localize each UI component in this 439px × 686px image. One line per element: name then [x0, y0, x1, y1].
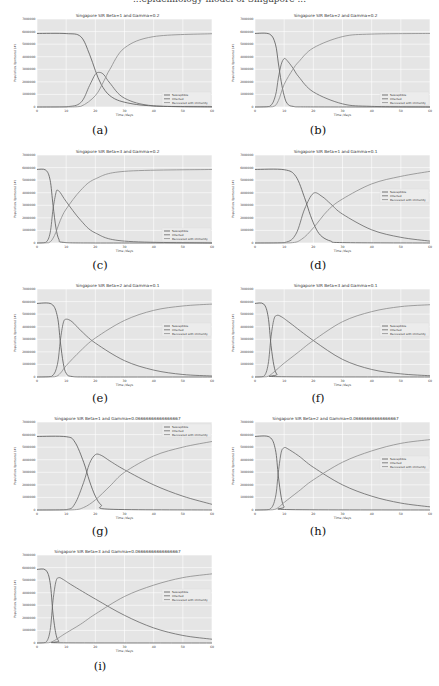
- svg-text:60: 60: [428, 379, 432, 383]
- svg-text:3000000: 3000000: [240, 203, 253, 207]
- svg-text:50: 50: [399, 379, 403, 383]
- svg-text:0: 0: [254, 245, 256, 249]
- subfigure-caption: (e): [80, 391, 120, 405]
- svg-text:5000000: 5000000: [240, 178, 253, 182]
- svg-text:20: 20: [93, 645, 97, 649]
- svg-text:7000000: 7000000: [240, 153, 253, 157]
- svg-text:60: 60: [210, 109, 214, 113]
- svg-text:Time /days: Time /days: [115, 113, 134, 117]
- svg-text:3000000: 3000000: [22, 603, 35, 607]
- subfigure-caption: (i): [80, 659, 120, 673]
- svg-text:40: 40: [152, 512, 156, 516]
- legend: SusceptibleInfectedRecovered with immuni…: [162, 424, 211, 437]
- svg-text:5000000: 5000000: [22, 178, 35, 182]
- line-chart: 0102030405060010000002000000300000040000…: [10, 413, 225, 525]
- svg-text:4000000: 4000000: [22, 191, 35, 195]
- svg-text:Population /(persons) (#): Population /(persons) (#): [13, 180, 17, 218]
- svg-text:Recovered with immunity: Recovered with immunity: [390, 101, 426, 105]
- svg-text:60: 60: [210, 379, 214, 383]
- svg-text:4000000: 4000000: [22, 325, 35, 329]
- svg-text:Time /days: Time /days: [115, 516, 134, 520]
- svg-text:Population /(persons) (#): Population /(persons) (#): [231, 447, 235, 485]
- svg-text:2000000: 2000000: [240, 483, 253, 487]
- legend: SusceptibleInfectedRecovered with immuni…: [162, 228, 211, 241]
- svg-text:Time /days: Time /days: [115, 249, 134, 253]
- svg-text:7000000: 7000000: [240, 287, 253, 291]
- svg-text:10: 10: [282, 512, 286, 516]
- svg-text:3000000: 3000000: [240, 67, 253, 71]
- svg-text:3000000: 3000000: [22, 203, 35, 207]
- svg-text:5000000: 5000000: [22, 42, 35, 46]
- svg-text:4000000: 4000000: [22, 55, 35, 59]
- svg-text:10: 10: [64, 512, 68, 516]
- svg-text:Population /(persons) (#): Population /(persons) (#): [231, 44, 235, 82]
- svg-text:0: 0: [34, 508, 36, 512]
- svg-text:6000000: 6000000: [22, 30, 35, 34]
- svg-text:Population /(persons) (#): Population /(persons) (#): [13, 447, 17, 485]
- svg-text:Population /(persons) (#): Population /(persons) (#): [231, 180, 235, 218]
- svg-text:0: 0: [36, 379, 38, 383]
- svg-text:2000000: 2000000: [240, 216, 253, 220]
- svg-text:0: 0: [252, 508, 254, 512]
- svg-text:6000000: 6000000: [22, 300, 35, 304]
- svg-text:5000000: 5000000: [22, 578, 35, 582]
- svg-text:4000000: 4000000: [240, 458, 253, 462]
- svg-text:40: 40: [152, 109, 156, 113]
- svg-text:Recovered with immunity: Recovered with immunity: [172, 598, 208, 602]
- svg-text:5000000: 5000000: [240, 445, 253, 449]
- svg-text:4000000: 4000000: [22, 591, 35, 595]
- svg-text:10: 10: [64, 379, 68, 383]
- svg-text:0: 0: [34, 375, 36, 379]
- svg-text:0: 0: [36, 512, 38, 516]
- svg-text:0: 0: [252, 105, 254, 109]
- subfigure-caption: (d): [298, 258, 338, 272]
- svg-text:50: 50: [399, 512, 403, 516]
- svg-text:7000000: 7000000: [22, 553, 35, 557]
- svg-text:4000000: 4000000: [22, 458, 35, 462]
- svg-text:30: 30: [340, 512, 344, 516]
- svg-text:40: 40: [152, 379, 156, 383]
- svg-text:60: 60: [210, 245, 214, 249]
- svg-text:40: 40: [370, 109, 374, 113]
- svg-text:4000000: 4000000: [240, 191, 253, 195]
- svg-text:10: 10: [282, 379, 286, 383]
- svg-text:30: 30: [340, 109, 344, 113]
- subfigure-caption: (a): [80, 123, 120, 137]
- svg-text:10: 10: [282, 245, 286, 249]
- svg-text:6000000: 6000000: [240, 433, 253, 437]
- svg-text:Population /(persons) (#): Population /(persons) (#): [13, 580, 17, 618]
- svg-text:60: 60: [210, 645, 214, 649]
- svg-text:50: 50: [181, 379, 185, 383]
- svg-text:7000000: 7000000: [22, 420, 35, 424]
- svg-text:6000000: 6000000: [240, 166, 253, 170]
- svg-text:Recovered with immunity: Recovered with immunity: [172, 332, 208, 336]
- line-chart: 0102030405060010000002000000300000040000…: [228, 280, 439, 392]
- svg-text:0: 0: [254, 379, 256, 383]
- line-chart: 0102030405060010000002000000300000040000…: [10, 146, 225, 258]
- svg-text:5000000: 5000000: [240, 312, 253, 316]
- line-chart: 0102030405060010000002000000300000040000…: [10, 10, 225, 122]
- svg-text:Time /days: Time /days: [333, 516, 352, 520]
- svg-text:3000000: 3000000: [22, 67, 35, 71]
- svg-text:1000000: 1000000: [22, 495, 35, 499]
- svg-text:30: 30: [340, 245, 344, 249]
- svg-text:2000000: 2000000: [240, 80, 253, 84]
- svg-text:40: 40: [370, 512, 374, 516]
- svg-text:3000000: 3000000: [22, 470, 35, 474]
- svg-text:6000000: 6000000: [240, 30, 253, 34]
- svg-text:20: 20: [311, 109, 315, 113]
- legend: SusceptibleInfectedRecovered with immuni…: [162, 589, 211, 602]
- legend: SusceptibleInfectedRecovered with immuni…: [380, 189, 429, 202]
- svg-text:Population /(persons) (#): Population /(persons) (#): [231, 314, 235, 352]
- svg-text:0: 0: [252, 241, 254, 245]
- svg-text:30: 30: [122, 512, 126, 516]
- svg-text:50: 50: [181, 512, 185, 516]
- legend: SusceptibleInfectedRecovered with immuni…: [162, 323, 211, 336]
- svg-text:7000000: 7000000: [22, 287, 35, 291]
- svg-text:10: 10: [64, 645, 68, 649]
- svg-text:Time /days: Time /days: [115, 383, 134, 387]
- svg-text:20: 20: [93, 245, 97, 249]
- svg-text:40: 40: [152, 245, 156, 249]
- truncated-header-text: ...epidemiology model of Singapore ...: [0, 0, 439, 4]
- svg-text:Time /days: Time /days: [333, 113, 352, 117]
